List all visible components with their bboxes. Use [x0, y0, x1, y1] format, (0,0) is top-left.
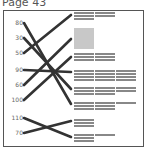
- answer-block-3: [74, 53, 116, 62]
- line-90[interactable]: [24, 70, 71, 72]
- line-70[interactable]: [24, 121, 71, 133]
- answer-block-8: [74, 134, 116, 143]
- answer-block-5: [74, 87, 137, 96]
- answer-block-4: [74, 70, 137, 82]
- answer-block-1: [74, 12, 116, 21]
- answer-block-6: [74, 102, 137, 111]
- answer-block-2-image: [74, 28, 94, 49]
- answer-block-7: [74, 119, 95, 128]
